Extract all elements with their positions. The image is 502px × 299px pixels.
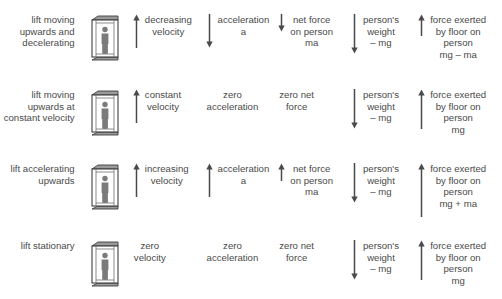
velocity-arrow [131,89,142,90]
arrow-down-icon [349,163,360,203]
weight-label: person's weight – mg [363,14,399,49]
row-description: lift moving upwards and decelerating [0,14,79,49]
cell-velocity: decreasing velocity [131,14,204,37]
cell-velocity: zero velocity [131,240,204,263]
lift-with-person-icon [90,14,120,62]
arrow-up-icon [416,89,427,129]
net-force-label: zero net force [279,89,314,112]
row-description: lift accelerating upwards [0,163,79,186]
arrow-down-icon [349,14,360,54]
cell-floor-force: force exerted by floor on person mg – ma [416,14,502,60]
arrow-up-icon [416,240,427,280]
arrow-up-icon [204,163,215,197]
floor-force-label: force exerted by floor on person mg + ma [430,163,486,209]
arrow-up-icon [131,163,142,197]
floor-force-label: force exerted by floor on person mg – ma [430,14,486,60]
cell-weight: person's weight – mg [349,240,416,275]
lift-icon-cell [79,14,131,62]
velocity-arrow [131,14,142,15]
cell-acceleration: zero acceleration [204,89,277,112]
velocity-arrow [131,163,142,164]
cell-floor-force: force exerted by floor on person mg [416,240,502,286]
arrow-up-icon [416,163,427,217]
acceleration-label: zero acceleration [207,240,259,263]
row-description: lift moving upwards at constant velocity [0,89,79,124]
cell-net-force: zero net force [276,240,349,263]
lift-forces-diagram: lift moving upwards and decelerating dec… [0,0,502,299]
floor-force-arrow [416,89,427,90]
table-row: lift stationary zero velocity ze [0,240,502,288]
acceleration-label: zero acceleration [207,89,259,112]
cell-velocity: constant velocity [131,89,204,112]
weight-label: person's weight – mg [363,89,399,124]
lift-with-person-icon [90,240,120,288]
lift-with-person-icon [90,163,120,211]
floor-force-arrow [416,163,427,164]
cell-acceleration: acceleration a [204,14,277,37]
velocity-label: constant velocity [145,89,181,112]
arrow-down-icon [349,89,360,129]
cell-velocity: increasing velocity [131,163,204,186]
row-description: lift stationary [0,240,79,252]
weight-arrow [349,89,360,90]
floor-force-arrow [416,14,427,15]
acceleration-label: acceleration a [218,14,270,37]
cell-floor-force: force exerted by floor on person mg + ma [416,163,502,209]
net-force-label: zero net force [279,240,314,263]
cell-net-force: zero net force [276,89,349,112]
weight-arrow [349,14,360,15]
arrow-up-icon [416,14,427,36]
acceleration-arrow [204,14,215,15]
arrow-down-icon [204,14,215,48]
table-row: lift moving upwards at constant velocity… [0,89,502,137]
net-force-label: net force on person ma [290,163,333,198]
weight-arrow [349,240,360,241]
net-force-label: net force on person ma [290,14,333,49]
velocity-label: decreasing velocity [145,14,192,37]
floor-force-label: force exerted by floor on person mg [430,240,486,286]
floor-force-arrow [416,240,427,241]
cell-net-force: net force on person ma [276,14,349,49]
cell-floor-force: force exerted by floor on person mg [416,89,502,135]
cell-weight: person's weight – mg [349,14,416,49]
floor-force-label: force exerted by floor on person mg [430,89,486,135]
weight-label: person's weight – mg [363,163,399,198]
cell-acceleration: acceleration a [204,163,277,186]
lift-icon-cell [79,163,131,211]
cell-net-force: net force on person ma [276,163,349,198]
velocity-label: zero velocity [134,240,166,263]
arrow-up-icon [131,14,142,48]
arrow-up-icon [131,89,142,123]
weight-label: person's weight – mg [363,240,399,275]
weight-arrow [349,163,360,164]
acceleration-arrow [204,163,215,164]
lift-icon-cell [79,89,131,137]
table-row: lift moving upwards and decelerating dec… [0,14,502,62]
cell-weight: person's weight – mg [349,163,416,198]
lift-with-person-icon [90,89,120,137]
net-force-arrow [276,163,287,164]
cell-acceleration: zero acceleration [204,240,277,263]
arrow-up-icon [276,163,287,181]
table-row: lift accelerating upwards increasing vel… [0,163,502,211]
arrow-down-icon [349,240,360,280]
cell-weight: person's weight – mg [349,89,416,124]
arrow-down-icon [276,14,287,32]
acceleration-label: acceleration a [218,163,270,186]
velocity-label: increasing velocity [145,163,189,186]
net-force-arrow [276,14,287,15]
lift-icon-cell [79,240,131,288]
